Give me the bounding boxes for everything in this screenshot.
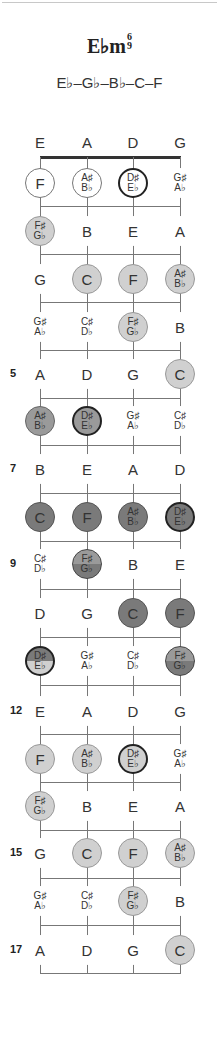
note-marker: A♯B♭: [118, 502, 148, 532]
note-label: G♯A♭: [72, 646, 102, 676]
string-name-label: A: [72, 134, 102, 151]
note-label: A: [25, 359, 55, 389]
note-name: G: [34, 846, 46, 861]
note-label: E: [118, 791, 148, 821]
note-name: G: [127, 943, 139, 958]
note-enharmonic: E♭: [127, 759, 139, 769]
note-label: D: [118, 696, 148, 726]
note-name: A: [175, 799, 185, 814]
fret-line: [40, 445, 181, 446]
note-marker: A♯B♭: [72, 744, 102, 774]
note-name: D: [175, 462, 186, 477]
note-name: B: [35, 462, 45, 477]
note-name: E: [82, 462, 92, 477]
note-label: D: [72, 359, 102, 389]
note-enharmonic: A♭: [34, 901, 46, 911]
note-name: E: [128, 224, 138, 239]
note-label: C♯D♭: [72, 886, 102, 916]
note-marker: C: [72, 838, 102, 868]
note-name: F: [128, 272, 137, 287]
note-name: G: [127, 367, 139, 382]
note-name: E: [128, 799, 138, 814]
note-label: G♯A♭: [165, 168, 195, 198]
note-marker: F: [72, 502, 102, 532]
note-name: A: [82, 704, 92, 719]
note-name: B: [175, 320, 185, 335]
note-marker: A♯B♭: [165, 838, 195, 868]
fret-line: [40, 685, 181, 686]
note-enharmonic: D♭: [81, 901, 93, 911]
note-name: C: [175, 367, 186, 382]
note-label: D: [165, 454, 195, 484]
note-enharmonic: D♭: [34, 564, 46, 574]
note-marker: D♯E♭: [25, 646, 55, 676]
note-enharmonic: G♭: [127, 901, 140, 911]
fret-line: [40, 782, 181, 783]
note-marker: C: [165, 935, 195, 965]
note-marker: C: [118, 598, 148, 628]
note-marker: C: [25, 502, 55, 532]
note-enharmonic: D♭: [174, 421, 186, 431]
fret-line: [40, 973, 181, 974]
note-marker: F♯G♭: [72, 549, 102, 579]
note-enharmonic: G♭: [34, 231, 47, 241]
note-label: D: [25, 598, 55, 628]
note-name: A: [35, 943, 45, 958]
note-name: E: [35, 704, 45, 719]
note-name: A: [35, 367, 45, 382]
note-name: F: [35, 752, 44, 767]
note-marker: F: [118, 838, 148, 868]
note-enharmonic: D♭: [127, 661, 139, 671]
fret-line: [40, 878, 181, 879]
note-enharmonic: G♭: [127, 327, 140, 337]
string-name-label: E: [25, 134, 55, 151]
note-name: C: [35, 510, 46, 525]
note-label: E: [165, 549, 195, 579]
note-marker: D♯E♭: [118, 744, 148, 774]
note-label: G: [72, 598, 102, 628]
note-name: A: [128, 462, 138, 477]
note-marker: F: [25, 744, 55, 774]
fret-line: [40, 925, 181, 926]
note-enharmonic: D♭: [81, 327, 93, 337]
note-enharmonic: A♭: [34, 327, 46, 337]
note-enharmonic: B♭: [34, 421, 46, 431]
note-name: F: [35, 176, 44, 191]
fret-line: [40, 541, 181, 542]
note-label: B: [72, 216, 102, 246]
fret-line: [40, 493, 181, 494]
note-name: G: [34, 272, 46, 287]
note-marker: F♯G♭: [165, 646, 195, 676]
nut: [40, 156, 181, 159]
note-label: C♯D♭: [118, 646, 148, 676]
fret-line: [40, 350, 181, 351]
string-name-label: G: [165, 134, 195, 151]
note-enharmonic: G♭: [34, 806, 47, 816]
note-marker: D♯E♭: [118, 168, 148, 198]
note-name: E: [175, 557, 185, 572]
note-marker: F: [118, 264, 148, 294]
fret-line: [40, 734, 181, 735]
note-name: D: [35, 606, 46, 621]
note-marker: A♯B♭: [165, 264, 195, 294]
note-name: C: [82, 846, 93, 861]
note-label: A: [25, 935, 55, 965]
note-marker: F♯G♭: [25, 216, 55, 246]
note-label: E: [25, 696, 55, 726]
note-label: G: [118, 359, 148, 389]
note-marker: F: [165, 598, 195, 628]
note-name: F: [82, 510, 91, 525]
note-name: F: [175, 606, 184, 621]
note-marker: F: [25, 168, 55, 198]
note-enharmonic: B♭: [127, 517, 139, 527]
note-name: D: [82, 367, 93, 382]
note-label: A: [118, 454, 148, 484]
note-label: A: [165, 791, 195, 821]
note-label: C♯D♭: [165, 406, 195, 436]
note-label: B: [25, 454, 55, 484]
note-enharmonic: A♭: [174, 759, 186, 769]
note-enharmonic: E♭: [81, 421, 93, 431]
fret-line: [40, 206, 181, 207]
note-enharmonic: E♭: [34, 661, 46, 671]
fret-line: [40, 302, 181, 303]
